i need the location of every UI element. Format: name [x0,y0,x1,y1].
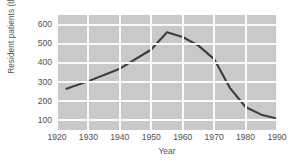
grid-line-vertical [119,15,121,130]
grid-line-horizontal [57,62,277,64]
grid-line-vertical [213,15,215,130]
grid-line-horizontal [57,24,277,26]
y-axis-tick-label: 500 [5,39,57,48]
grid-line-vertical [245,15,247,130]
y-axis-tick-label: 600 [5,20,57,29]
grid-line-horizontal [57,43,277,45]
grid-line-horizontal [57,119,277,121]
y-axis-tick-label: 200 [5,97,57,106]
grid-line-vertical [276,15,278,130]
grid-line-horizontal [57,81,277,83]
x-axis-tick-labels: 19201930194019501960197019801990 [0,132,290,146]
y-axis-tick-label: 400 [5,58,57,67]
y-axis-tick-label: 100 [5,116,57,125]
line-chart-figure: Resident patients (thousands) 1002003004… [0,0,290,168]
y-axis-tick-label: 300 [5,78,57,87]
grid-line-vertical [56,15,58,130]
x-axis-title: Year [57,146,277,156]
x-axis-tick-label: 1990 [257,132,290,142]
grid-line-vertical [150,15,152,130]
grid-line-vertical [182,15,184,130]
grid-line-horizontal [57,100,277,102]
plot-area [57,15,277,130]
grid-line-vertical [87,15,89,130]
